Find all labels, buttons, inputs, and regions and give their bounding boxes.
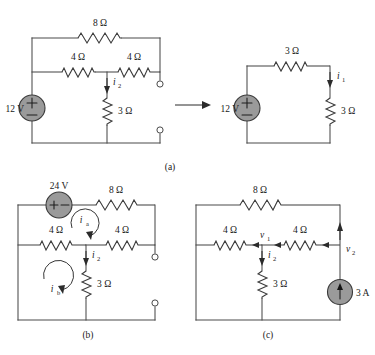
current-arrow-i1-a-right bbox=[327, 72, 333, 88]
terminal-bottom-a-left bbox=[157, 127, 163, 133]
current-subscript-i2-c: 2 bbox=[273, 255, 276, 262]
resistor-8ohm-b bbox=[96, 200, 155, 210]
current-arrow-i2-c bbox=[259, 251, 265, 266]
resistor-label-3ohm-a-left: 3 Ω bbox=[118, 106, 132, 116]
resistor-8ohm-a-left bbox=[78, 33, 122, 43]
resistor-3ohm-shunt-c bbox=[258, 271, 267, 299]
resistor-3ohm-top-a-right bbox=[274, 62, 330, 71]
mesh-label-ia-b: i bbox=[80, 215, 83, 225]
resistor-3ohm-shunt-b bbox=[82, 271, 91, 299]
caption-c: (c) bbox=[263, 330, 274, 341]
resistor-4ohm-left-b bbox=[40, 241, 86, 250]
resistor-8ohm-c bbox=[240, 200, 340, 210]
resistor-label-8ohm-c: 8 Ω bbox=[253, 185, 267, 195]
resistor-label-8ohm-a-left: 8 Ω bbox=[93, 18, 107, 28]
resistor-label-3ohm-top-a-right: 3 Ω bbox=[285, 46, 299, 56]
current-arrow-i2-a-left bbox=[104, 78, 110, 94]
flow-arrow-right-of-v1-c bbox=[274, 242, 281, 248]
mesh-label-ib-b: i bbox=[51, 284, 54, 294]
flow-arrow-left-of-v1-c bbox=[252, 242, 259, 248]
resistor-label-4ohm-right-a-left: 4 Ω bbox=[127, 52, 141, 62]
caption-b: (b) bbox=[82, 330, 93, 341]
equivalence-arrow bbox=[175, 101, 211, 109]
mesh-subscript-ia-b: a bbox=[86, 220, 89, 227]
current-subscript-i2-b: 2 bbox=[97, 255, 100, 262]
node-label-v2-c: v bbox=[346, 244, 351, 254]
flow-arrow-up-right-c bbox=[337, 222, 343, 240]
resistor-4ohm-right-a-left bbox=[118, 68, 160, 77]
voltage-source-24v-b bbox=[46, 192, 72, 218]
terminal-top-a-left bbox=[157, 81, 163, 87]
current-arrow-i2-b bbox=[83, 251, 89, 266]
current-subscript-i2-a-left: 2 bbox=[118, 82, 121, 89]
source-label-12v-a-left: 12 V bbox=[5, 104, 24, 114]
source-label-12v-a-right: 12 V bbox=[220, 104, 239, 114]
current-label-i1-a-right: i bbox=[337, 71, 340, 81]
current-subscript-i1-a-right: 1 bbox=[342, 76, 345, 83]
circuit-a-right: 3 Ω 12 V 3 Ω i 1 bbox=[220, 46, 355, 143]
node-label-v1-c: v bbox=[260, 230, 265, 240]
terminal-bottom-b bbox=[152, 300, 158, 306]
resistor-label-4ohm-right-c: 4 Ω bbox=[293, 225, 307, 235]
resistor-4ohm-right-c bbox=[284, 241, 340, 250]
resistor-label-8ohm-b: 8 Ω bbox=[109, 185, 123, 195]
circuit-c: 8 Ω 4 Ω 4 Ω v 1 v 2 bbox=[196, 185, 370, 320]
node-subscript-v2-c: 2 bbox=[352, 249, 355, 256]
current-label-i2-b: i bbox=[92, 250, 95, 260]
source-label-24v-b: 24 V bbox=[50, 181, 69, 191]
resistor-label-4ohm-left-b: 4 Ω bbox=[49, 225, 63, 235]
mesh-subscript-ib-b: b bbox=[57, 289, 60, 296]
resistor-3ohm-right-a-right bbox=[326, 98, 335, 126]
resistor-label-3ohm-right-a-right: 3 Ω bbox=[341, 106, 355, 116]
node-subscript-v1-c: 1 bbox=[267, 235, 270, 242]
resistor-4ohm-right-b bbox=[106, 241, 155, 250]
resistor-label-4ohm-left-a-left: 4 Ω bbox=[71, 52, 85, 62]
circuit-a-left: 8 Ω 4 Ω 4 Ω 12 V bbox=[5, 18, 163, 143]
resistor-4ohm-left-a-left bbox=[62, 68, 96, 77]
current-source-3a-c bbox=[328, 280, 353, 305]
circuit-b: 8 Ω 24 V 4 Ω 4 Ω 3 Ω bbox=[18, 181, 158, 320]
flow-arrow-left-of-v2-c bbox=[322, 242, 329, 248]
resistor-label-4ohm-left-c: 4 Ω bbox=[223, 225, 237, 235]
terminal-top-b bbox=[152, 254, 158, 260]
resistor-label-3ohm-c: 3 Ω bbox=[273, 279, 287, 289]
resistor-label-3ohm-b: 3 Ω bbox=[97, 279, 111, 289]
resistor-label-4ohm-right-b: 4 Ω bbox=[115, 225, 129, 235]
current-label-i2-c: i bbox=[268, 250, 271, 260]
circuit-figure: 8 Ω 4 Ω 4 Ω 12 V bbox=[0, 0, 375, 355]
current-label-i2-a-left: i bbox=[113, 77, 116, 87]
source-label-3a-c: 3 A bbox=[356, 288, 370, 298]
resistor-3ohm-shunt-a-left bbox=[103, 98, 112, 126]
caption-a: (a) bbox=[165, 162, 176, 173]
